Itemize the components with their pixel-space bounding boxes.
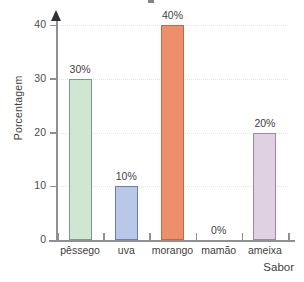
- y-tick-label: 40: [20, 18, 46, 30]
- y-tick-label: 10: [20, 179, 46, 191]
- bar-value-label: 20%: [239, 117, 291, 129]
- bar-value-label: 40%: [147, 9, 199, 21]
- bar-series: [57, 25, 288, 240]
- bar: [115, 186, 138, 240]
- y-axis-title: Porcentagem: [12, 48, 24, 168]
- bar-value-label: 30%: [54, 63, 106, 75]
- bar: [253, 133, 276, 241]
- x-category-label: ameixa: [235, 244, 295, 256]
- bar: [161, 25, 184, 240]
- bar-value-label: 0%: [193, 224, 245, 236]
- y-tick-label: 0: [20, 233, 46, 245]
- bar-value-label: 10%: [100, 170, 152, 182]
- x-axis-line: [49, 240, 295, 242]
- cropped-title-fragment: [148, 0, 154, 3]
- bar: [69, 79, 92, 240]
- y-tick-label: 30: [20, 72, 46, 84]
- bar-chart: Porcentagem 010203040 30%10%40%0%20% pês…: [0, 0, 304, 282]
- x-tick-mark: [288, 233, 290, 241]
- y-tick-label: 20: [20, 126, 46, 138]
- y-axis-arrow-icon: [51, 10, 61, 21]
- x-axis-title: Sabor: [263, 261, 294, 273]
